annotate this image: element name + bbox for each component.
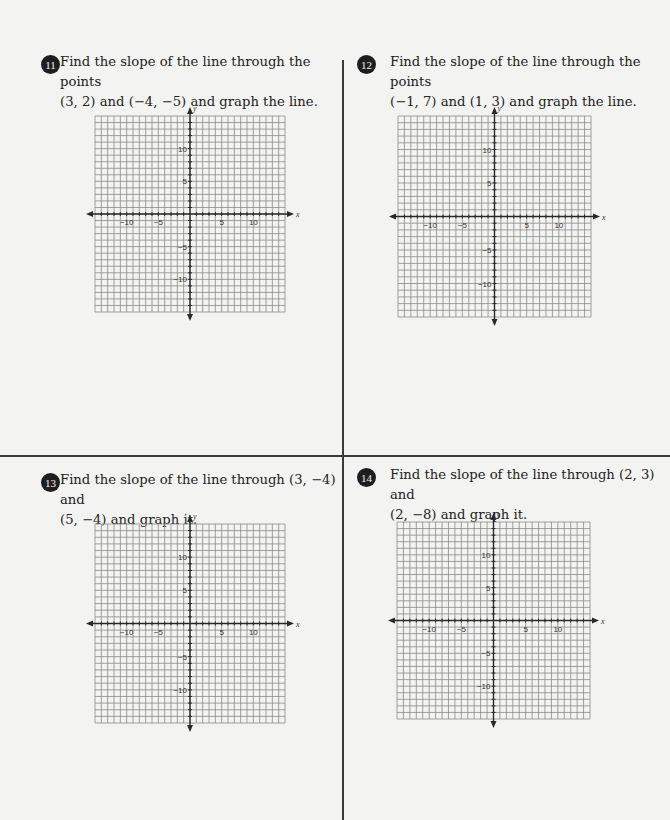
x-axis-label: x [600, 617, 605, 626]
x-axis-left-arrow-icon [86, 621, 93, 627]
problem-number-badge: 11 [41, 55, 60, 74]
x-axis-label: x [295, 620, 300, 629]
problem-prompt: Find the slope of the line through (2, 3… [390, 465, 670, 525]
y-axis-down-arrow-icon [187, 725, 193, 732]
grid-svg: −10−5510105−5−10xy [95, 524, 285, 723]
x-axis-left-arrow-icon [388, 618, 395, 624]
y-tick-label: 10 [483, 146, 492, 155]
problem-prompt: Find the slope of the line through (3, −… [60, 470, 350, 530]
x-tick-label: 10 [249, 218, 258, 227]
x-tick-label: −10 [422, 625, 436, 634]
x-tick-label: −10 [423, 221, 437, 230]
coordinate-grid[interactable]: −10−5510105−5−10xy [397, 522, 590, 719]
problem-prompt: Find the slope of the line through the p… [60, 52, 350, 112]
coordinate-grid[interactable]: −10−5510105−5−10xy [398, 116, 591, 317]
x-tick-label: 5 [219, 218, 224, 227]
y-tick-label: −5 [178, 243, 188, 252]
y-axis-down-arrow-icon [187, 314, 193, 321]
coordinate-grid[interactable]: −10−5510105−5−10xy [95, 524, 285, 723]
x-tick-label: −5 [154, 218, 164, 227]
x-axis-left-arrow-icon [389, 214, 396, 220]
x-axis-left-arrow-icon [86, 211, 93, 217]
x-axis-label: x [601, 213, 606, 222]
prompt-line-2: (3, 2) and (−4, −5) and graph the line. [60, 92, 350, 112]
x-axis-right-arrow-icon [287, 211, 294, 217]
y-tick-label: −5 [481, 649, 491, 658]
x-tick-label: 5 [219, 628, 224, 637]
problem-number-badge: 14 [357, 468, 376, 487]
x-tick-label: −5 [457, 625, 467, 634]
y-axis-label: y [496, 510, 501, 519]
y-tick-label: −10 [173, 275, 187, 284]
horizontal-divider [0, 455, 670, 457]
prompt-line-1: Find the slope of the line through the p… [390, 52, 670, 92]
y-axis-label: y [192, 104, 197, 113]
y-tick-label: 5 [487, 179, 492, 188]
x-tick-label: −10 [120, 628, 134, 637]
y-tick-label: 10 [178, 145, 187, 154]
x-tick-label: 10 [553, 625, 562, 634]
x-axis-right-arrow-icon [593, 214, 600, 220]
y-tick-label: −5 [482, 246, 492, 255]
y-tick-label: 10 [482, 551, 491, 560]
y-tick-label: −5 [178, 653, 188, 662]
x-tick-label: −10 [120, 218, 134, 227]
y-tick-label: 10 [178, 553, 187, 562]
y-tick-label: −10 [478, 280, 492, 289]
x-axis-right-arrow-icon [592, 618, 599, 624]
x-tick-label: 5 [524, 221, 529, 230]
prompt-line-1: Find the slope of the line through the p… [60, 52, 350, 92]
y-axis-down-arrow-icon [492, 319, 498, 326]
prompt-line-1: Find the slope of the line through (2, 3… [390, 465, 670, 505]
y-tick-label: 5 [486, 584, 491, 593]
axes [86, 107, 294, 321]
y-axis-label: y [497, 104, 502, 113]
y-tick-label: −10 [173, 686, 187, 695]
x-tick-label: −5 [458, 221, 468, 230]
x-axis-label: x [295, 210, 300, 219]
y-axis-label: y [192, 512, 197, 521]
prompt-line-1: Find the slope of the line through (3, −… [60, 470, 350, 510]
coordinate-grid[interactable]: −10−5510105−5−10xy [95, 116, 285, 312]
axes [86, 515, 294, 732]
vertical-divider [342, 60, 344, 820]
x-axis-right-arrow-icon [287, 621, 294, 627]
grid-svg: −10−5510105−5−10xy [398, 116, 591, 317]
y-tick-label: 5 [183, 586, 188, 595]
problem-number-badge: 13 [41, 473, 60, 492]
y-tick-label: 5 [183, 177, 188, 186]
x-tick-label: 10 [249, 628, 258, 637]
y-axis-down-arrow-icon [491, 721, 497, 728]
x-tick-label: 5 [523, 625, 528, 634]
grid-svg: −10−5510105−5−10xy [95, 116, 285, 312]
axes [389, 107, 600, 326]
problem-number-badge: 12 [357, 55, 376, 74]
problem-prompt: Find the slope of the line through the p… [390, 52, 670, 112]
x-tick-label: 10 [554, 221, 563, 230]
x-tick-label: −5 [154, 628, 164, 637]
axes [388, 513, 599, 728]
prompt-line-2: (−1, 7) and (1, 3) and graph the line. [390, 92, 670, 112]
grid-svg: −10−5510105−5−10xy [397, 522, 590, 719]
y-tick-label: −10 [477, 682, 491, 691]
